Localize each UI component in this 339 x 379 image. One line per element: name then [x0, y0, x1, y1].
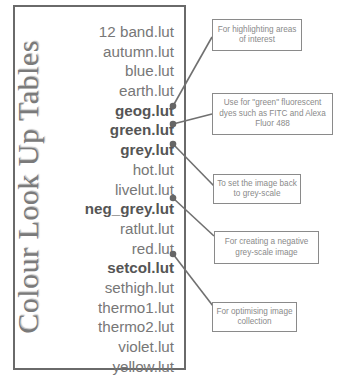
connector-line	[173, 114, 212, 124]
bullet-dot-icon	[170, 195, 177, 202]
connector-line	[173, 37, 212, 106]
connector-line	[173, 144, 214, 186]
callout-neg-grey: For creating a negative grey-scale image	[214, 231, 319, 264]
callout-green: Use for "green" fluorescent dyes such as…	[212, 93, 333, 135]
callout-geog: For highlighting areas of interest	[212, 19, 302, 51]
bullet-dot-icon	[170, 251, 177, 258]
bullet-dot-icon	[170, 141, 177, 148]
connector-line	[173, 254, 213, 306]
callout-grey: To set the image back to grey-scale	[213, 174, 301, 204]
bullet-dot-icon	[170, 121, 177, 128]
callout-setcol: For optimising image collection	[212, 302, 297, 332]
connector-line	[173, 198, 214, 236]
bullet-dot-icon	[170, 103, 177, 110]
